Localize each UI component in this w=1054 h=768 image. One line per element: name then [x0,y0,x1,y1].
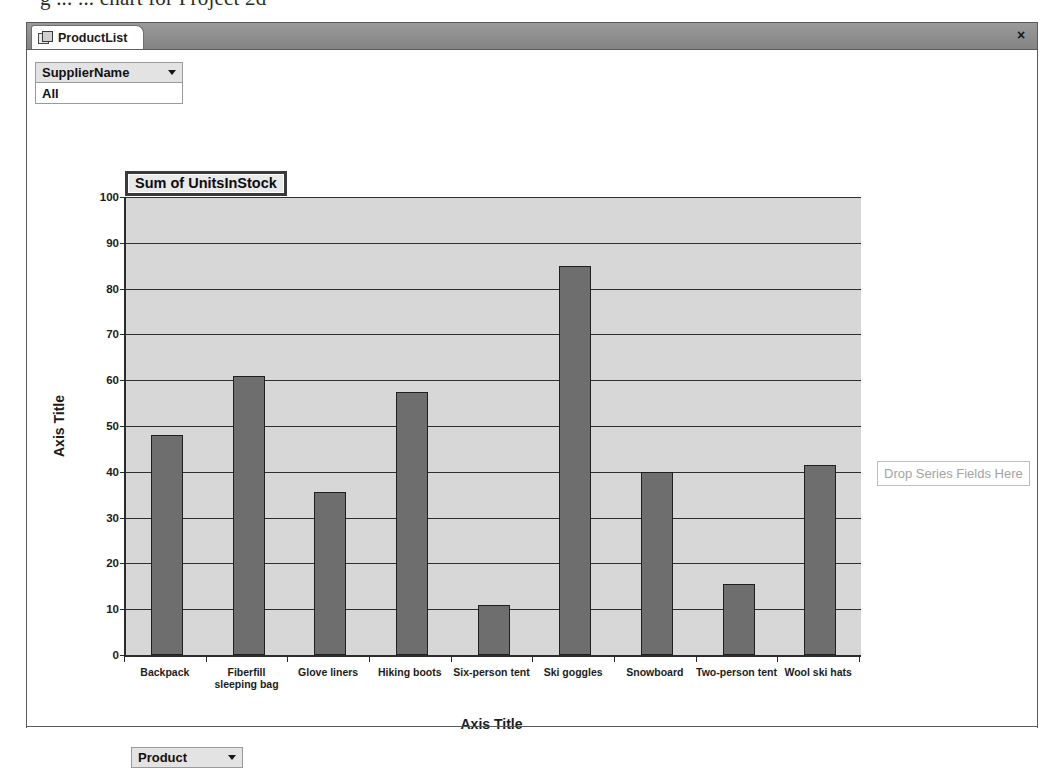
x-tick-label: Backpack [124,666,206,678]
y-tick-label: 30 [106,512,119,524]
x-tick-label: Snowboard [614,666,696,678]
bar[interactable] [559,266,591,655]
bar[interactable] [804,465,836,655]
pivotchart-canvas: SupplierName All Sum of UnitsInStock 010… [27,50,1037,728]
bar[interactable] [723,584,755,655]
bar[interactable] [478,605,510,655]
x-axis-title[interactable]: Axis Title [124,716,859,732]
access-document-window: ProductList × SupplierName All Sum of Un… [26,22,1038,728]
bar-series [126,197,861,655]
bar[interactable] [396,392,428,655]
bar[interactable] [314,492,346,655]
plot-area: 0102030405060708090100 [124,197,861,657]
x-tick-label: Hiking boots [369,666,451,678]
x-tick-label: Ski goggles [532,666,614,678]
x-tick-label: Fiberfill sleeping bag [206,666,288,690]
x-tick-mark [451,655,452,662]
x-tick-mark [124,655,125,662]
document-tab-productlist[interactable]: ProductList [31,25,144,49]
y-tick-label: 70 [106,328,119,340]
category-field-product[interactable]: Product [131,747,243,768]
x-tick-label: Two-person tent [696,666,778,678]
x-tick-mark [777,655,778,662]
bar[interactable] [151,435,183,655]
y-tick-label: 10 [106,603,119,615]
x-tick-mark [614,655,615,662]
form-datasheet-icon [38,31,52,44]
bar[interactable] [233,376,265,655]
y-tick-label: 60 [106,374,119,386]
chart-title[interactable]: Sum of UnitsInStock [125,171,287,196]
category-field-button[interactable]: Product [131,747,243,768]
chevron-down-icon [168,70,176,75]
y-tick-label: 50 [106,420,119,432]
document-tab-strip: ProductList × [27,23,1037,50]
x-tick-mark [206,655,207,662]
y-tick-label: 80 [106,283,119,295]
x-tick-label: Glove liners [287,666,369,678]
x-axis: BackpackFiberfill sleeping bagGlove line… [124,655,859,715]
filter-field-button[interactable]: SupplierName [35,62,183,83]
x-tick-mark [696,655,697,662]
drop-series-fields-zone[interactable]: Drop Series Fields Here [877,461,1030,486]
close-icon[interactable]: × [1013,27,1029,43]
document-tab-label: ProductList [58,31,127,45]
x-tick-mark [287,655,288,662]
filter-field-label: SupplierName [42,65,129,80]
y-tick-label: 40 [106,466,119,478]
y-tick-label: 100 [100,191,119,203]
y-tick-label: 20 [106,557,119,569]
window-bottom-divider [27,726,1037,727]
x-tick-mark [532,655,533,662]
bar[interactable] [641,472,673,655]
filter-field-supplier[interactable]: SupplierName All [35,62,183,104]
x-tick-mark [859,655,860,662]
page-heading: g ... ... chart for Project 2d [40,0,266,11]
y-tick-label: 0 [113,649,119,661]
category-field-label: Product [138,750,187,765]
chevron-down-icon [228,755,236,760]
filter-field-value[interactable]: All [35,83,183,104]
y-axis-title[interactable]: Axis Title [51,395,67,457]
x-tick-mark [369,655,370,662]
x-tick-label: Six-person tent [451,666,533,678]
x-tick-label: Wool ski hats [777,666,859,678]
y-tick-label: 90 [106,237,119,249]
